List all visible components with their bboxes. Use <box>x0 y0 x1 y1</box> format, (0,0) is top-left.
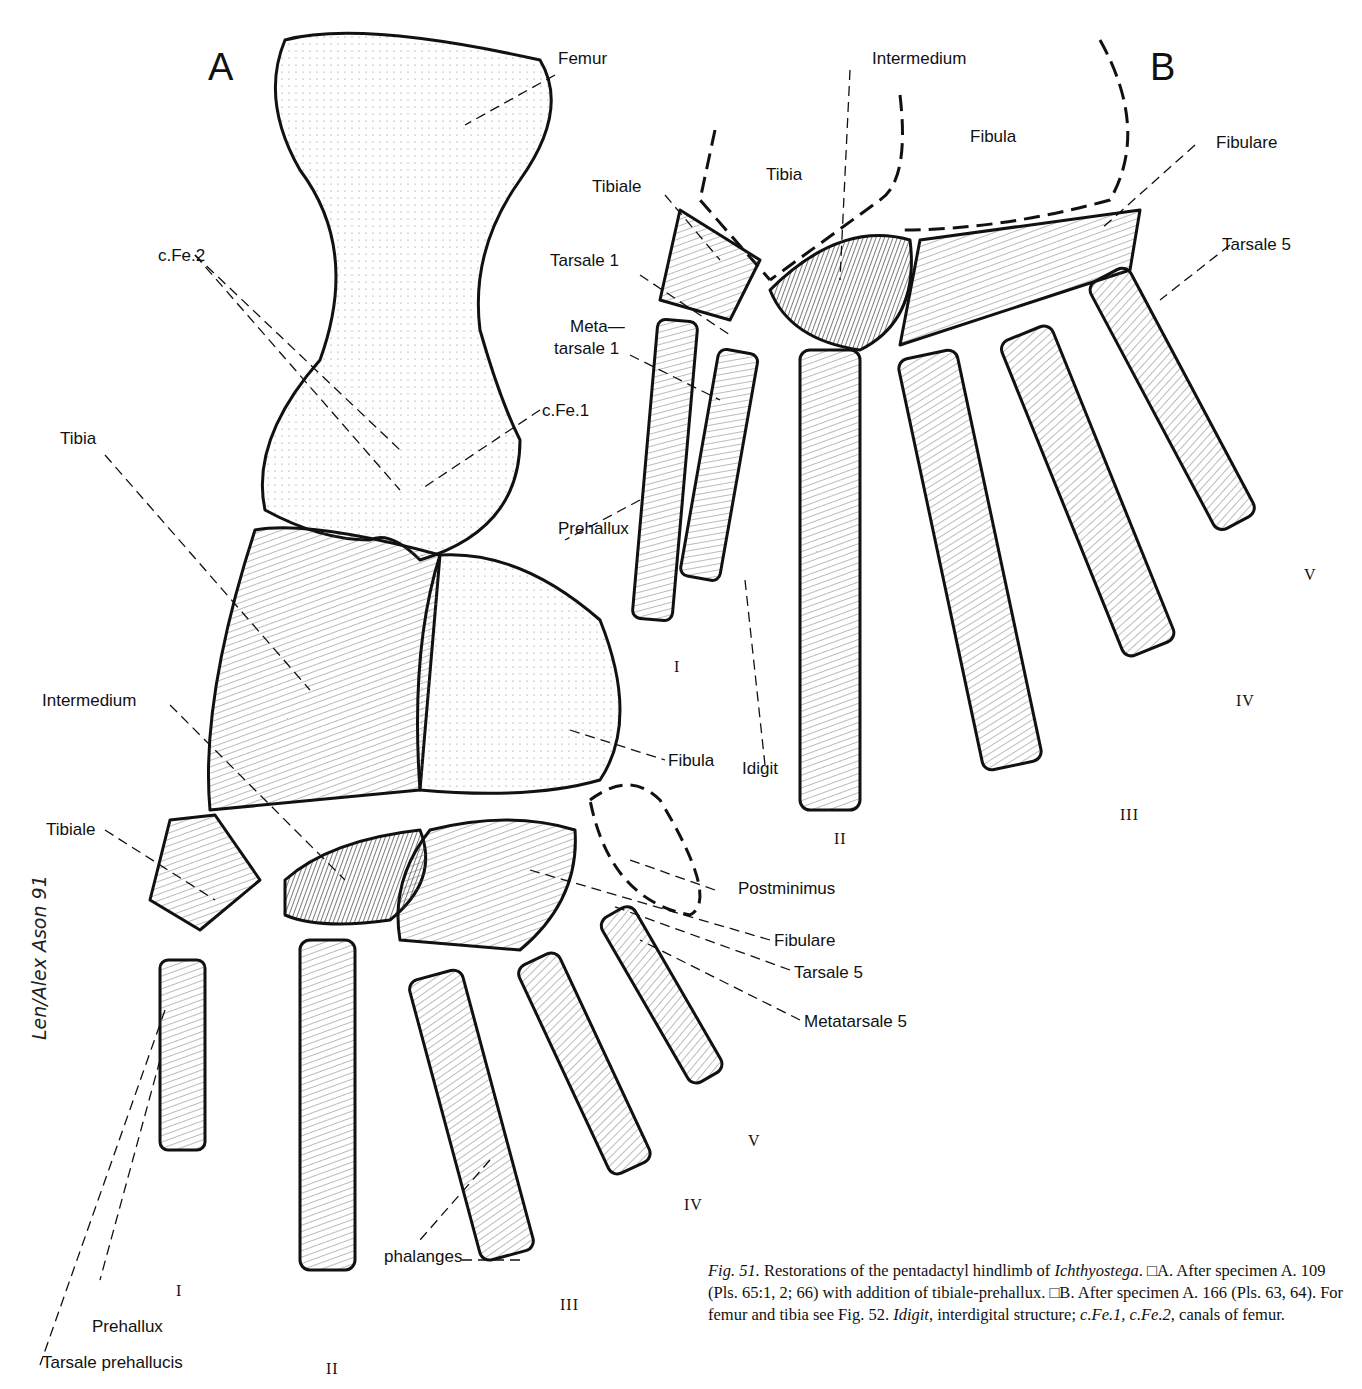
caption-text-4: , canals of femur. <box>1171 1305 1285 1324</box>
digit-b-5: V <box>1304 566 1317 584</box>
label-tarsale5-b: Tarsale 5 <box>1222 236 1291 255</box>
label-femur: Femur <box>558 50 607 69</box>
artist-signature: Len/Alex Ason 91 <box>28 875 50 1040</box>
digit-b-1: I <box>674 658 680 676</box>
caption-fig-label: Fig. 51. <box>708 1261 760 1280</box>
caption-cfe: c.Fe.1, c.Fe.2 <box>1080 1305 1171 1324</box>
caption-text-3: , interdigital structure; <box>929 1305 1080 1324</box>
label-tibiale-b: Tibiale <box>592 178 641 197</box>
digit-a-2: II <box>326 1360 339 1378</box>
caption-idigit: Idigit <box>893 1305 929 1324</box>
caption-taxon: Ichthyostega <box>1054 1261 1138 1280</box>
label-prehallux-a: Prehallux <box>92 1318 163 1337</box>
label-tibiale-a: Tibiale <box>46 821 95 840</box>
label-intermedium-a: Intermedium <box>42 692 136 711</box>
label-metatarsale5: Metatarsale 5 <box>804 1013 907 1032</box>
panel-label-b: B <box>1150 46 1175 89</box>
panel-label-a: A <box>208 46 233 89</box>
label-fibula-b: Fibula <box>970 128 1016 147</box>
digit-a-4: IV <box>684 1196 703 1214</box>
label-fibula-a: Fibula <box>668 752 714 771</box>
digit-b-3: III <box>1120 806 1139 824</box>
label-tarsale-prehallucis: Tarsale prehallucis <box>42 1354 183 1373</box>
label-intermedium-b: Intermedium <box>872 50 966 69</box>
digit-a-3: III <box>560 1296 579 1314</box>
label-prehallux-b: Prehallux <box>558 520 629 539</box>
label-tarsale1: Tarsale 1 <box>550 252 619 271</box>
label-cfe1: c.Fe.1 <box>542 402 589 421</box>
label-tibia-b: Tibia <box>766 166 802 185</box>
label-tibia-a: Tibia <box>60 430 96 449</box>
label-phalanges: phalanges <box>384 1248 462 1267</box>
label-tarsale5-a: Tarsale 5 <box>794 964 863 983</box>
hindlimb-illustration <box>0 0 1362 1389</box>
label-metatarsale1-line1: Meta— <box>570 318 625 337</box>
digit-a-5: V <box>748 1132 761 1150</box>
label-fibulare-b: Fibulare <box>1216 134 1277 153</box>
digit-b-4: IV <box>1236 692 1255 710</box>
label-idigit: Idigit <box>742 760 778 779</box>
digit-a-1: I <box>176 1282 182 1300</box>
label-metatarsale1-line2: tarsale 1 <box>554 340 619 359</box>
caption-text-1: Restorations of the pentadactyl hindlimb… <box>760 1261 1055 1280</box>
digit-b-2: II <box>834 830 847 848</box>
label-cfe2: c.Fe.2 <box>158 247 205 266</box>
label-postminimus: Postminimus <box>738 880 835 899</box>
label-fibulare-a: Fibulare <box>774 932 835 951</box>
figure-caption: Fig. 51. Restorations of the pentadactyl… <box>708 1260 1348 1326</box>
